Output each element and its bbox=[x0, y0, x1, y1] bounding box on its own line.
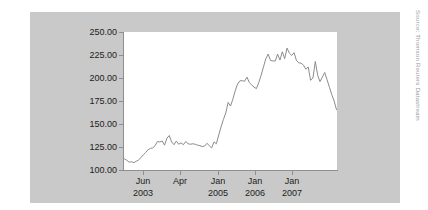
x-axis-tick-year: 2007 bbox=[282, 188, 302, 198]
x-axis-tick-label: Jan2007 bbox=[282, 176, 302, 198]
source-attribution: Source: Thomson Reuters Datastream bbox=[411, 10, 425, 200]
x-axis-tick-label: Jun2003 bbox=[133, 176, 153, 198]
x-axis-tick-label: Jan2005 bbox=[208, 176, 228, 198]
x-axis-tick-month: Jan bbox=[208, 176, 228, 186]
x-axis-tick-month: Jan bbox=[282, 176, 302, 186]
x-axis-tick-label: Apr bbox=[173, 176, 187, 186]
x-axis-tick-year: 2006 bbox=[245, 188, 265, 198]
source-attribution-text: Source: Thomson Reuters Datastream bbox=[415, 10, 422, 121]
x-axis-tick-year: 2005 bbox=[208, 188, 228, 198]
x-axis-tick-year: 2003 bbox=[133, 188, 153, 198]
x-axis-tick-month: Apr bbox=[173, 176, 187, 186]
x-axis-tick-month: Jan bbox=[245, 176, 265, 186]
x-axis-labels: Jun2003AprJan2005Jan2006Jan2007 bbox=[0, 0, 428, 210]
x-axis-tick-label: Jan2006 bbox=[245, 176, 265, 198]
x-axis-tick-month: Jun bbox=[133, 176, 153, 186]
